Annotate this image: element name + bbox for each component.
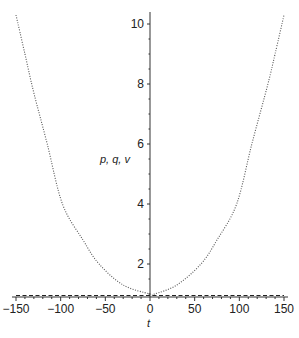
chart: −150−100−50050100150 246810 p, q, v t (0, 0, 299, 338)
y-tick-label: 6 (137, 137, 144, 151)
x-tick-label: 50 (188, 302, 202, 316)
y-axis: 246810 (131, 12, 150, 297)
x-axis-label: t (147, 317, 151, 329)
x-tick-label: 150 (274, 302, 294, 316)
y-tick-label: 4 (137, 197, 144, 211)
x-tick-label: −150 (2, 302, 29, 316)
y-tick-label: 8 (137, 77, 144, 91)
x-tick-label: 0 (147, 302, 154, 316)
x-tick-label: −100 (47, 302, 74, 316)
y-tick-label: 2 (137, 257, 144, 271)
y-axis-label: p, q, v (99, 153, 131, 165)
x-tick-label: −50 (95, 302, 116, 316)
x-axis: −150−100−50050100150 (2, 297, 294, 316)
y-tick-label: 10 (131, 17, 145, 31)
x-tick-label: 100 (229, 302, 249, 316)
